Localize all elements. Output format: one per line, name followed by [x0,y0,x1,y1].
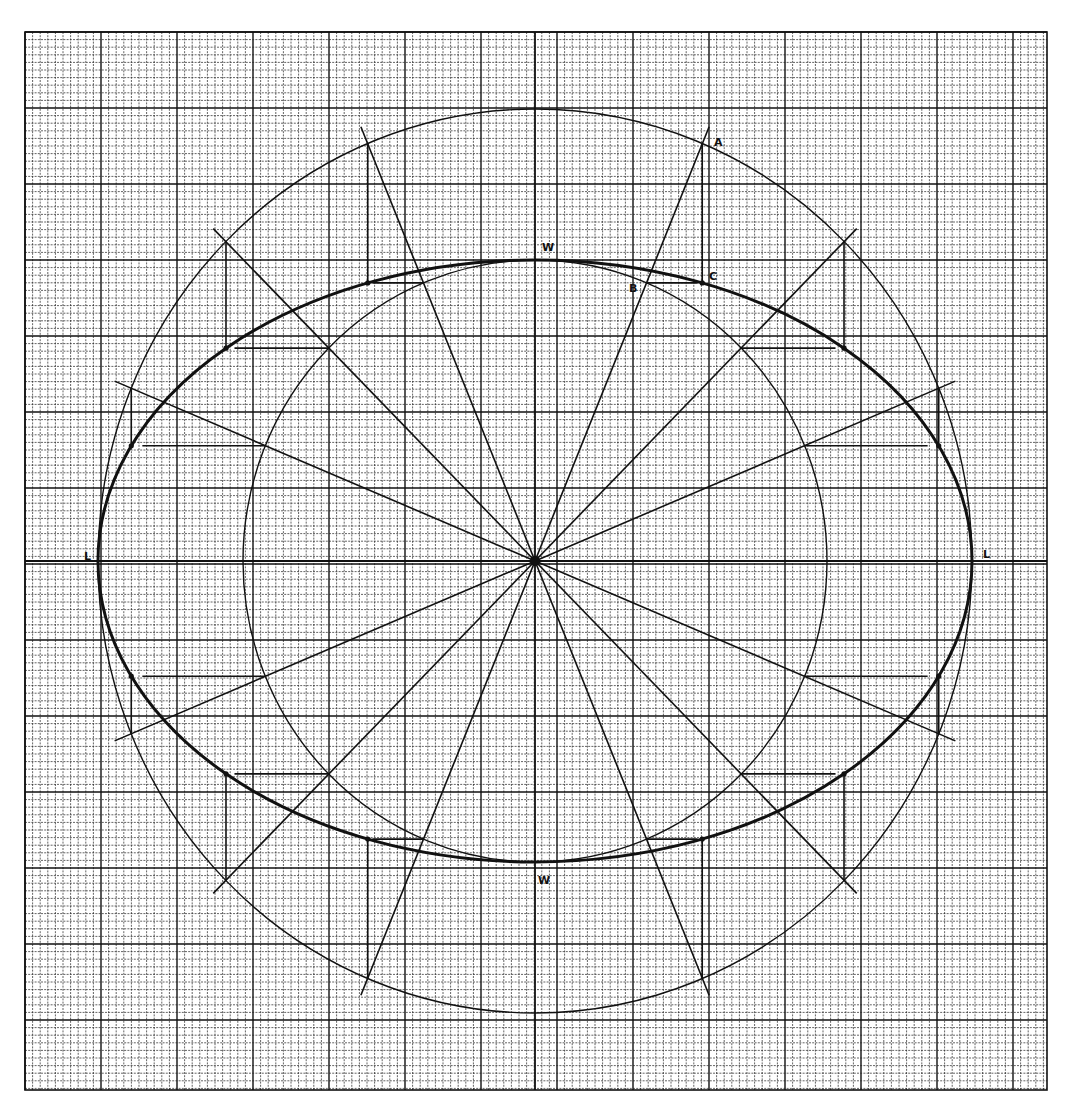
ellipse-point [365,836,370,841]
ellipse-construction-diagram: A B C W W L L [0,0,1073,1109]
ellipse-point [365,280,370,285]
ellipse-point [129,443,134,448]
ellipse-point [936,674,941,679]
ellipse-point [129,674,134,679]
ellipse-point [936,443,941,448]
label-B: B [629,282,637,295]
paper-background [0,0,1073,1109]
ellipse-point [700,280,705,285]
label-L-right: L [983,548,990,561]
ellipse-point [841,771,846,776]
label-L-left: L [84,550,91,563]
ellipse-point [700,836,705,841]
ellipse-point [223,346,228,351]
center-point [530,556,540,566]
label-W-top: W [542,241,554,254]
label-A: A [714,136,723,149]
ellipse-point [223,771,228,776]
ellipse-point [841,346,846,351]
label-C: C [709,270,717,283]
label-W-bottom: W [538,874,550,887]
